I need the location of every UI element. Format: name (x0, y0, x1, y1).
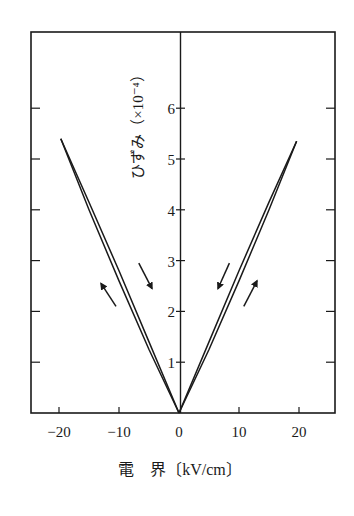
series-left-decreasing (61, 139, 179, 413)
arrow-up-left-icon (101, 283, 116, 306)
arrow-down-left-icon (218, 263, 229, 288)
plot-frame (31, 32, 335, 413)
x-tick-label: 10 (232, 424, 247, 440)
x-tick-label: 20 (292, 424, 307, 440)
y-tick-label: 4 (168, 203, 176, 219)
x-axis-label: 電 界〔kV/cm〕 (118, 456, 242, 480)
axis-tick-labels: −20−1001020123456 (47, 101, 306, 440)
y-tick-label: 3 (168, 254, 176, 270)
data-series (61, 139, 297, 413)
y-tick-label: 1 (168, 355, 176, 371)
series-right-decreasing (179, 141, 297, 413)
y-axis-label: ひずみ（×10⁻⁴） (126, 48, 146, 198)
plot-border (31, 32, 335, 413)
axis-ticks (31, 108, 335, 413)
x-tick-label: −20 (47, 424, 70, 440)
y-tick-label: 2 (168, 304, 176, 320)
x-tick-label: −10 (107, 424, 130, 440)
y-tick-label: 6 (168, 101, 176, 117)
y-tick-label: 5 (168, 152, 176, 168)
strain-field-chart: −20−1001020123456 (0, 0, 354, 516)
arrow-up-right-icon (244, 281, 257, 306)
x-tick-label: 0 (175, 424, 183, 440)
arrow-down-right-icon (139, 263, 152, 288)
